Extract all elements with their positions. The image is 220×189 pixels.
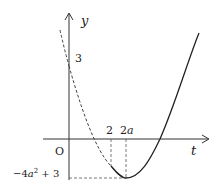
tick-label-2a: 2a	[120, 124, 134, 137]
parabola-dashed-left	[60, 30, 69, 66]
graph-svg: y t O 3 2 2a −4a2 + 3	[0, 0, 220, 189]
y-axis-label: y	[80, 13, 89, 28]
tick-label-2: 2	[106, 124, 113, 137]
t-axis-label: t	[191, 143, 197, 158]
y-axis	[65, 13, 73, 180]
min-value-label: −4a2 + 3	[13, 167, 59, 179]
parabola-dashed-mid	[69, 66, 111, 166]
graph-canvas: y t O 3 2 2a −4a2 + 3	[0, 0, 220, 189]
parabola-solid	[111, 33, 199, 178]
y-intercept-label: 3	[75, 52, 82, 65]
origin-label: O	[55, 145, 64, 158]
